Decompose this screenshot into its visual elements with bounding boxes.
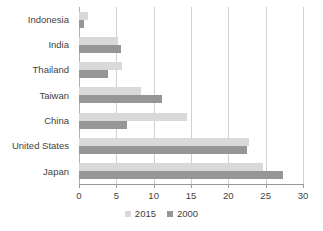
bar-2000	[79, 95, 162, 103]
x-axis-tick-labels: 051015202530	[79, 189, 303, 202]
bar-2015	[79, 163, 263, 171]
legend-item-2015[interactable]: 2015	[125, 209, 156, 219]
legend-label: 2015	[135, 209, 156, 219]
x-tick-label: 15	[186, 189, 197, 202]
legend-item-2000[interactable]: 2000	[167, 209, 198, 219]
legend-swatch-icon	[167, 211, 173, 217]
bar-group	[79, 83, 303, 108]
x-tick-label: 0	[76, 189, 81, 202]
bar-group	[79, 7, 303, 32]
category-label: Indonesia	[0, 7, 74, 32]
bar-2015	[79, 37, 118, 45]
plot-area	[79, 7, 303, 184]
bar-2000	[79, 45, 121, 53]
bar-group	[79, 32, 303, 57]
bar-2000	[79, 20, 84, 28]
x-tick	[303, 184, 304, 188]
chart-legend: 20152000	[0, 207, 323, 221]
bar-2015	[79, 12, 88, 20]
category-axis: IndonesiaIndiaThailandTaiwanChinaUnited …	[0, 7, 74, 184]
gridline	[303, 7, 304, 184]
bar-chart: IndonesiaIndiaThailandTaiwanChinaUnited …	[0, 0, 323, 231]
x-tick	[154, 184, 155, 188]
x-tick	[79, 184, 80, 188]
bar-group	[79, 58, 303, 83]
x-tick-label: 10	[148, 189, 159, 202]
category-label: Taiwan	[0, 83, 74, 108]
bar-2015	[79, 87, 141, 95]
x-tick	[191, 184, 192, 188]
bar-group	[79, 159, 303, 184]
x-axis-ticks	[79, 184, 303, 188]
x-tick-label: 5	[114, 189, 119, 202]
x-tick-label: 25	[260, 189, 271, 202]
bar-2000	[79, 121, 127, 129]
bar-2000	[79, 146, 247, 154]
bar-2000	[79, 70, 108, 78]
x-tick-label: 20	[223, 189, 234, 202]
bar-2015	[79, 113, 187, 121]
bars-layer	[79, 7, 303, 184]
category-label: India	[0, 32, 74, 57]
x-tick-label: 30	[298, 189, 309, 202]
bar-group	[79, 108, 303, 133]
category-label: Japan	[0, 159, 74, 184]
bar-2000	[79, 171, 283, 179]
bar-2015	[79, 62, 122, 70]
category-label: Thailand	[0, 58, 74, 83]
x-tick	[266, 184, 267, 188]
bar-group	[79, 133, 303, 158]
legend-label: 2000	[177, 209, 198, 219]
x-tick	[228, 184, 229, 188]
x-tick	[116, 184, 117, 188]
category-label: China	[0, 108, 74, 133]
legend-swatch-icon	[125, 211, 131, 217]
category-label: United States	[0, 133, 74, 158]
bar-2015	[79, 138, 249, 146]
